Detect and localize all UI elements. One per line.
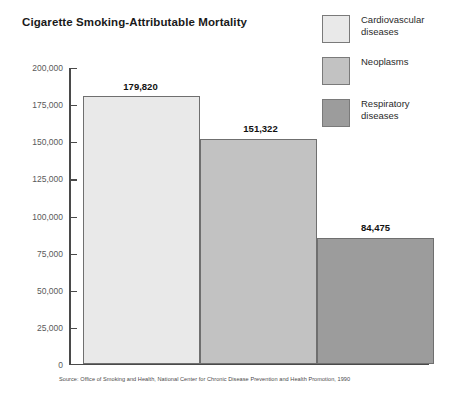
chart-source-note: Source: Office of Smoking and Health, Na… bbox=[59, 376, 350, 382]
y-axis-labels: 200,000 175,000 150,000 125,000 100,000 … bbox=[0, 68, 63, 365]
bar-value-label: 179,820 bbox=[123, 81, 157, 92]
y-tick-label: 175,000 bbox=[32, 100, 63, 110]
y-tick-label: 100,000 bbox=[32, 212, 63, 222]
y-tick-label: 75,000 bbox=[37, 249, 63, 259]
bar-respiratory[interactable] bbox=[317, 238, 434, 364]
legend-item[interactable]: Cardiovascular diseases bbox=[322, 14, 448, 43]
bar-group: 179,820 151,322 84,475 bbox=[71, 68, 430, 364]
legend-swatch-icon bbox=[322, 15, 350, 43]
x-axis-line bbox=[69, 364, 429, 366]
y-tick-label: 125,000 bbox=[32, 174, 63, 184]
legend-item-label: Cardiovascular diseases bbox=[361, 14, 447, 37]
bar-value-label: 151,322 bbox=[243, 123, 277, 134]
legend-item-label: Neoplasms bbox=[361, 56, 409, 68]
bar-value-label: 84,475 bbox=[361, 222, 390, 233]
y-tick-label: 0 bbox=[58, 360, 63, 370]
plot-area: 179,820 151,322 84,475 bbox=[69, 68, 429, 365]
y-tick-label: 25,000 bbox=[37, 323, 63, 333]
chart-title: Cigarette Smoking-Attributable Mortality bbox=[22, 16, 247, 28]
y-tick-label: 150,000 bbox=[32, 137, 63, 147]
chart-figure: Cigarette Smoking-Attributable Mortality… bbox=[0, 0, 450, 408]
y-tick-label: 50,000 bbox=[37, 286, 63, 296]
bar-neoplasms[interactable] bbox=[200, 139, 317, 364]
bar-cardiovascular[interactable] bbox=[83, 96, 200, 363]
y-tick-label: 200,000 bbox=[32, 63, 63, 73]
